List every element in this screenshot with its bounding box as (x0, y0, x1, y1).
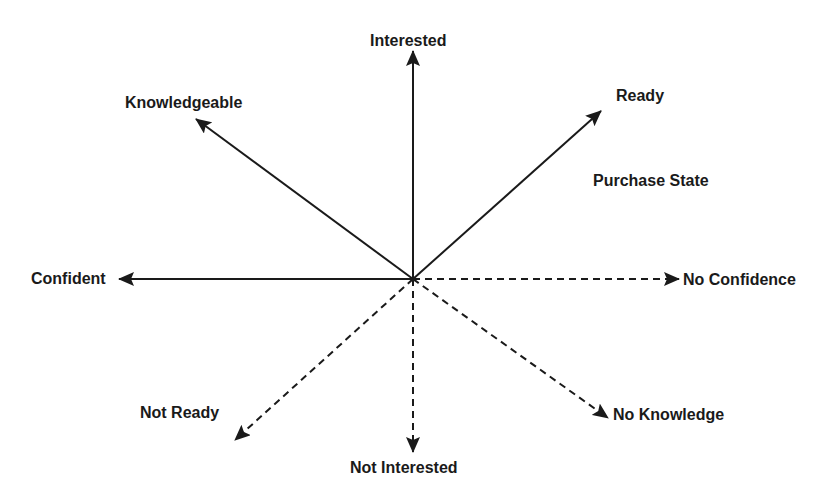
purchase-state-diagram (0, 0, 838, 502)
axis-label-knowledgeable: Knowledgeable (125, 95, 242, 111)
axis-label-confident: Confident (31, 271, 106, 287)
axis-arrow-knowledgeable (196, 119, 413, 279)
axis-label-ready: Ready (616, 88, 664, 104)
axis-label-no-confidence: No Confidence (683, 272, 796, 288)
diagram-title: Purchase State (593, 173, 709, 189)
axis-label-no-knowledge: No Knowledge (613, 407, 724, 423)
axis-label-not-interested: Not Interested (350, 460, 458, 476)
origin-point (411, 277, 416, 282)
axis-label-interested: Interested (370, 33, 446, 49)
axes-group (119, 51, 679, 452)
axis-arrow-ready (413, 111, 601, 279)
axis-arrow-not-ready (235, 279, 413, 440)
axis-arrow-no-knowledge (413, 279, 608, 418)
axis-label-not-ready: Not Ready (140, 405, 219, 421)
